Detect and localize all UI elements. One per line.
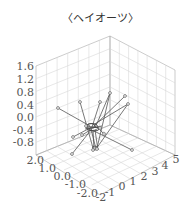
svg-text:0: 0: [119, 180, 126, 193]
svg-text:-1: -1: [105, 186, 116, 199]
svg-text:1: 1: [130, 175, 137, 188]
chart-title: 〈ヘイオーツ〉: [62, 12, 139, 25]
y-axis-ticks: 2.0 1.0 0.0 -1.0 -2.0: [27, 154, 99, 200]
3d-scatter-chart: 〈ヘイオーツ〉: [0, 0, 188, 221]
svg-text:3: 3: [152, 165, 159, 178]
z-axis-ticks: 1.6 1.2 0.8 0.4 0.0 -0.4 -0.8: [13, 60, 34, 149]
svg-text:1.2: 1.2: [17, 73, 35, 86]
svg-text:-0.8: -0.8: [13, 136, 34, 149]
svg-text:4: 4: [162, 159, 169, 172]
svg-text:2: 2: [141, 170, 148, 183]
svg-text:1.6: 1.6: [17, 60, 35, 73]
svg-text:0.8: 0.8: [17, 86, 35, 99]
svg-text:5: 5: [173, 153, 180, 166]
data-series: [58, 93, 132, 154]
svg-text:0.0: 0.0: [17, 111, 35, 124]
